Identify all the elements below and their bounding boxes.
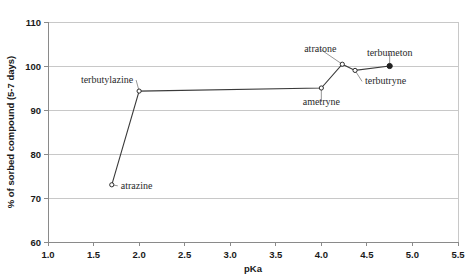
point-label-atrazine: atrazine — [121, 180, 153, 191]
point-label-terbutylazine: terbutylazine — [81, 74, 134, 85]
sorption-vs-pka-chart: 1.01.52.02.53.03.54.04.55.05.5 607080901… — [0, 0, 470, 279]
chart-background — [0, 0, 470, 279]
x-tick-label-2.0: 2.0 — [133, 249, 146, 260]
point-label-ametryne: ametryne — [303, 96, 341, 107]
point-label-terbumeton: terbumeton — [367, 47, 413, 58]
marker-atratone — [340, 62, 344, 66]
marker-atrazine — [110, 183, 114, 187]
y-tick-label-90: 90 — [30, 105, 41, 116]
y-tick-label-110: 110 — [26, 17, 41, 28]
chart-container: 1.01.52.02.53.03.54.04.55.05.5 607080901… — [0, 0, 470, 279]
y-tick-label-60: 60 — [30, 237, 41, 248]
x-tick-label-5.5: 5.5 — [451, 249, 465, 260]
y-tick-label-80: 80 — [30, 149, 41, 160]
marker-terbutryne — [353, 68, 357, 72]
x-axis-title: pKa — [244, 263, 263, 274]
x-tick-label-3.0: 3.0 — [224, 249, 237, 260]
marker-terbutylazine — [137, 89, 141, 93]
x-tick-label-2.5: 2.5 — [178, 249, 192, 260]
y-tick-label-70: 70 — [30, 193, 41, 204]
y-tick-label-100: 100 — [25, 61, 41, 72]
point-label-terbutryne: terbutryne — [365, 75, 407, 86]
x-tick-label-1.0: 1.0 — [41, 249, 54, 260]
point-label-atratone: atratone — [304, 43, 337, 54]
x-tick-label-3.5: 3.5 — [269, 249, 283, 260]
marker-terbumeton — [387, 63, 392, 68]
marker-ametryne — [319, 86, 323, 90]
x-tick-label-4.0: 4.0 — [315, 249, 328, 260]
y-axis-title: % of sorbed compound (5-7 days) — [5, 56, 16, 209]
x-tick-label-5.0: 5.0 — [406, 249, 419, 260]
x-tick-label-1.5: 1.5 — [87, 249, 101, 260]
x-tick-label-4.5: 4.5 — [360, 249, 374, 260]
